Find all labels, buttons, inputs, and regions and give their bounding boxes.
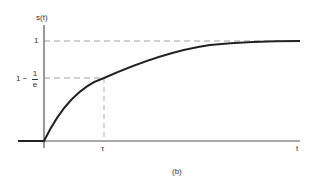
y-tick-one-label: 1 [34, 37, 38, 45]
y-tick-1-minus-label: 1 − [16, 75, 27, 83]
fraction-numerator: 1 [33, 70, 37, 78]
step-response-plot [0, 0, 332, 185]
fraction-denominator: e [33, 81, 37, 89]
y-tick-fraction: 1 e [32, 70, 38, 89]
figure-caption: (b) [172, 168, 182, 176]
y-axis-label: s(t) [36, 14, 48, 22]
x-axis-label: t [296, 145, 298, 153]
x-tick-tau-label: τ [101, 145, 104, 153]
response-curve [18, 41, 300, 141]
